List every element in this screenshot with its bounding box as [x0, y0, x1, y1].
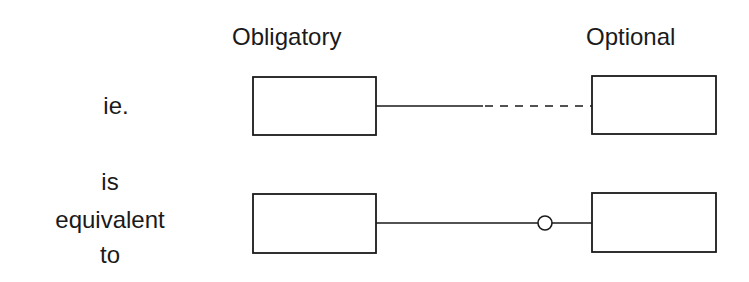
row-label-line-2: equivalent [55, 206, 165, 233]
header-optional: Optional [586, 23, 675, 50]
row-label-line-3: to [100, 241, 120, 268]
optional-circle-icon [538, 216, 552, 230]
header-obligatory: Obligatory [232, 23, 341, 50]
row-label-line-1: is [101, 168, 118, 195]
relationship-diagram: Obligatory Optional ie. is equivalent to [0, 0, 749, 282]
entity-box-obligatory [253, 194, 376, 253]
row-equivalent: is equivalent to [55, 168, 716, 268]
row-label-ie: ie. [103, 92, 128, 119]
entity-box-obligatory [253, 77, 376, 135]
entity-box-optional [592, 76, 716, 134]
row-ie: ie. [103, 76, 716, 135]
entity-box-optional [592, 193, 716, 252]
